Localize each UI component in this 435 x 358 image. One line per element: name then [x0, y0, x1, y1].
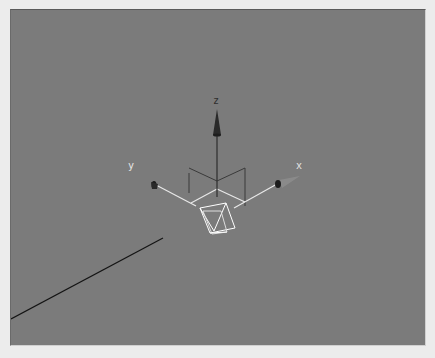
camera-wireframe-icon[interactable] — [200, 203, 235, 234]
y-axis-arrow-icon[interactable] — [151, 181, 158, 189]
scene-canvas[interactable] — [11, 10, 425, 345]
z-axis-label: z — [213, 96, 219, 106]
x-axis-label: x — [296, 161, 302, 171]
y-axis-label: y — [128, 161, 134, 171]
x-axis-arrow-icon[interactable] — [275, 176, 300, 188]
line-object[interactable] — [11, 238, 163, 319]
3d-viewport[interactable]: z y x — [10, 9, 426, 346]
z-axis-arrow-icon[interactable] — [213, 109, 221, 135]
